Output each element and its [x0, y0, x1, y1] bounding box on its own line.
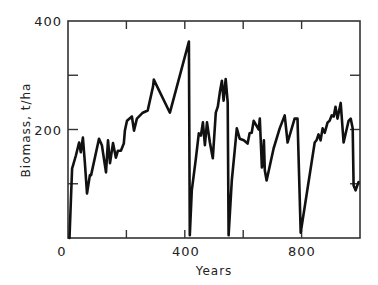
x-tick-label-0: 0 [57, 244, 66, 259]
x-axis-title: Years [195, 264, 233, 278]
tick-labels: 0 400 800 200 400 [34, 14, 316, 259]
biomass-line-chart: 0 400 800 200 400 Years Biomass, t/ha [0, 0, 378, 285]
biomass-series-line [70, 42, 359, 238]
y-tick-label-200: 200 [34, 123, 62, 138]
x-tick-label-400: 400 [172, 244, 200, 259]
y-tick-label-400: 400 [34, 14, 62, 29]
y-axis-title: Biomass, t/ha [19, 83, 33, 178]
x-tick-label-800: 800 [288, 244, 316, 259]
